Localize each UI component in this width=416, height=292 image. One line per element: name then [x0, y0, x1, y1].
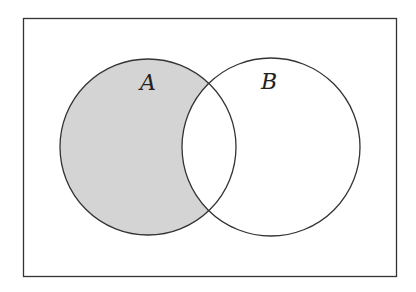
set-a-label: A	[138, 70, 156, 95]
venn-diagram: A B	[0, 0, 416, 292]
set-b-label: B	[260, 69, 277, 94]
shaded-region-a-minus-b	[0, 0, 416, 292]
